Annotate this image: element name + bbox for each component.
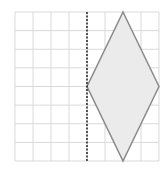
grid-diagram	[0, 0, 166, 173]
rhombus-shape	[87, 12, 159, 161]
